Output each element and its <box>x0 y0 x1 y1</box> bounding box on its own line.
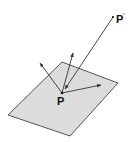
point-p-dot <box>61 92 64 95</box>
label-p-prime: P′ <box>116 12 125 25</box>
diagram-canvas <box>0 0 133 142</box>
label-p: P <box>57 96 64 107</box>
label-p-text: P <box>57 95 64 107</box>
prime-mark: ′ <box>123 12 124 19</box>
point-p-prime-dot <box>112 16 114 18</box>
